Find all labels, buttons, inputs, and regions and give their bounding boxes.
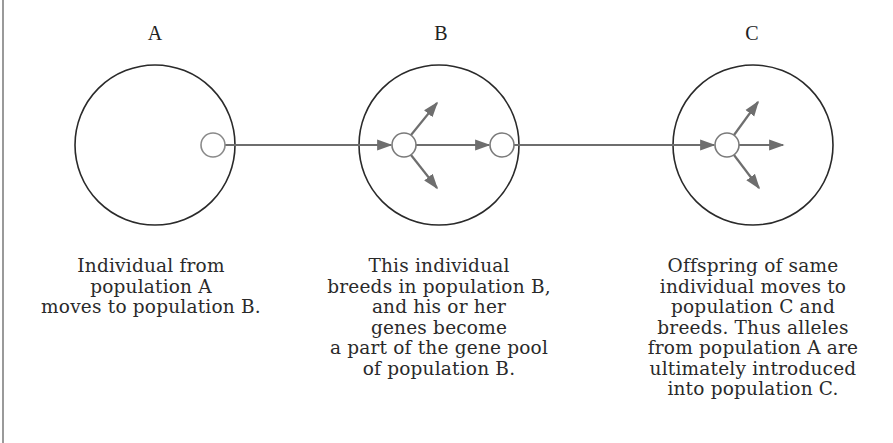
caption-line: into population C. — [648, 379, 858, 400]
caption-line: Offspring of same — [648, 256, 858, 277]
caption-c: Offspring of same individual moves to po… — [648, 256, 858, 400]
caption-line: a part of the gene pool — [327, 338, 551, 359]
offspring-arrow-b-up — [411, 103, 437, 135]
population-c-label: C — [745, 22, 758, 45]
caption-b: This individual breeds in population B, … — [327, 256, 551, 379]
caption-a: Individual from population A moves to po… — [41, 256, 261, 318]
caption-line: breeds in population B, — [327, 277, 551, 298]
offspring-in-b — [490, 133, 514, 157]
caption-line: of population B. — [327, 359, 551, 380]
population-b-label: B — [434, 22, 447, 45]
caption-line: This individual — [327, 256, 551, 277]
caption-line: and his or her — [327, 297, 551, 318]
offspring-arrow-c-up — [734, 102, 758, 135]
caption-line: breeds. Thus alleles — [648, 318, 858, 339]
caption-line: ultimately introduced — [648, 359, 858, 380]
offspring-in-c — [715, 133, 739, 157]
population-a-label: A — [148, 22, 162, 45]
offspring-arrow-b-down — [411, 155, 437, 188]
individual-in-b — [392, 133, 416, 157]
caption-line: moves to population B. — [41, 297, 261, 318]
individual-in-a — [201, 133, 225, 157]
caption-line: from population A are — [648, 338, 858, 359]
caption-line: individual moves to — [648, 277, 858, 298]
caption-line: Individual from — [41, 256, 261, 277]
offspring-arrow-c-down — [734, 155, 759, 188]
caption-line: genes become — [327, 318, 551, 339]
caption-line: population A — [41, 277, 261, 298]
caption-line: population C and — [648, 297, 858, 318]
